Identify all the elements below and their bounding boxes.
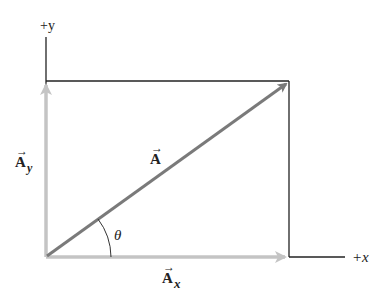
x-axis-label: +x <box>352 249 369 265</box>
y-axis-label: +y <box>40 18 55 33</box>
vector-ay-label: → A y <box>15 144 33 175</box>
vector-ax-label: → A x <box>162 260 181 291</box>
svg-text:y: y <box>25 161 33 175</box>
svg-text:A: A <box>162 270 173 286</box>
svg-text:x: x <box>173 276 181 291</box>
vector-a-arrow <box>47 84 286 256</box>
svg-text:A: A <box>150 151 161 167</box>
vector-diagram: +y +x → A y → A θ → A x <box>0 0 377 296</box>
angle-theta-label: θ <box>114 227 122 243</box>
vector-a-label: → A <box>150 141 163 167</box>
angle-arc <box>98 219 111 257</box>
svg-text:A: A <box>15 154 26 170</box>
